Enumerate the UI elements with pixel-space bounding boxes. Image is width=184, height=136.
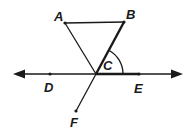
label-f: F — [70, 115, 79, 130]
segment-cf — [76, 74, 96, 111]
label-a: A — [53, 9, 63, 24]
geometry-diagram: A B C D E F — [0, 0, 184, 136]
point-d — [48, 72, 51, 75]
point-e — [137, 72, 140, 75]
label-b: B — [126, 7, 135, 22]
point-a — [63, 21, 66, 24]
label-d: D — [44, 80, 54, 95]
left-arrowhead-icon — [13, 70, 25, 79]
segment-ac — [65, 23, 96, 74]
label-e: E — [134, 81, 143, 96]
right-arrowhead-icon — [171, 70, 183, 79]
segment-ab — [65, 22, 124, 23]
point-f — [74, 109, 77, 112]
label-c: C — [103, 58, 113, 73]
